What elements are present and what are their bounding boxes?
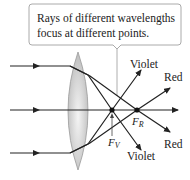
- violet-focal-point: [109, 107, 114, 112]
- chromatic-aberration-diagram: Rays of different wavelengths focus at d…: [0, 0, 190, 180]
- label-red-bottom: Red: [164, 138, 183, 150]
- callout-line-1: Rays of different wavelengths: [37, 12, 176, 25]
- label-focal-red: FR: [131, 115, 144, 129]
- red-focal-point: [134, 107, 139, 112]
- label-red-top: Red: [164, 71, 183, 83]
- callout-line-2: focus at different points.: [37, 27, 149, 40]
- label-violet-top: Violet: [130, 58, 159, 70]
- label-violet-bottom: Violet: [127, 150, 156, 162]
- label-focal-violet: FV: [107, 136, 121, 150]
- callout: Rays of different wavelengths focus at d…: [29, 4, 181, 96]
